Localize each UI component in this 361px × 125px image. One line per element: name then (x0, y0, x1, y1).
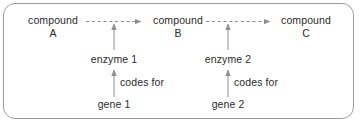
pathway-diagram: compound A compound B compound C enzyme … (0, 0, 361, 125)
compound-b-name: compound (147, 14, 209, 27)
compound-c-label: C (275, 27, 337, 40)
edge-label-codes-for-1: codes for (120, 76, 164, 89)
compound-a-label: A (22, 27, 84, 40)
node-gene-2: gene 2 (198, 98, 258, 111)
node-enzyme-1: enzyme 1 (79, 53, 149, 66)
node-gene-1: gene 1 (84, 98, 144, 111)
compound-a-name: compound (22, 14, 84, 27)
compound-c-name: compound (275, 14, 337, 27)
node-enzyme-2: enzyme 2 (193, 53, 263, 66)
compound-b-label: B (147, 27, 209, 40)
node-compound-a: compound A (22, 14, 84, 39)
edge-label-codes-for-2: codes for (234, 76, 278, 89)
node-compound-c: compound C (275, 14, 337, 39)
node-compound-b: compound B (147, 14, 209, 39)
